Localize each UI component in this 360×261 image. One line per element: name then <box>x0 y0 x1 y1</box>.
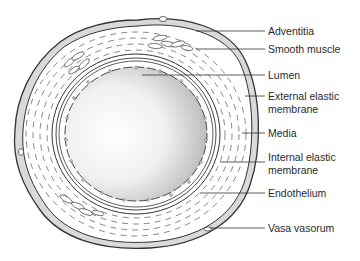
label-smooth-muscle: Smooth muscle <box>268 43 340 55</box>
label-external-elastic-membrane-line1: External elastic <box>268 90 339 102</box>
label-vasa-vasorum: Vasa vasorum <box>268 222 334 234</box>
label-media: Media <box>268 127 297 139</box>
label-internal-elastic-membrane-line2: membrane <box>268 164 318 176</box>
label-external-elastic-membrane-line2: membrane <box>268 103 318 115</box>
label-lumen: Lumen <box>268 69 300 81</box>
endothelium-layer <box>65 66 208 201</box>
label-adventitia: Adventitia <box>268 25 314 37</box>
label-endothelium: Endothelium <box>268 187 326 199</box>
label-internal-elastic-membrane-line1: Internal elastic <box>268 151 336 163</box>
